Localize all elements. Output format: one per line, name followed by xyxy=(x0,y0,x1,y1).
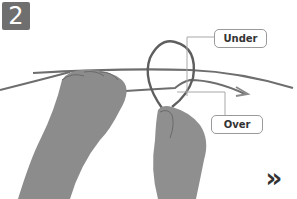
next-step-button[interactable]: » xyxy=(260,164,288,192)
double-chevron-right-icon: » xyxy=(266,163,283,193)
under-leader-line xyxy=(187,37,214,96)
callout-under: Under xyxy=(214,29,267,48)
rope-tail-left xyxy=(0,72,70,90)
right-hand xyxy=(153,106,206,199)
knot-step-illustration: 2 Under Over » xyxy=(0,0,297,199)
step-number-badge: 2 xyxy=(2,2,30,30)
callout-over: Over xyxy=(211,115,263,134)
left-hand xyxy=(18,70,127,199)
